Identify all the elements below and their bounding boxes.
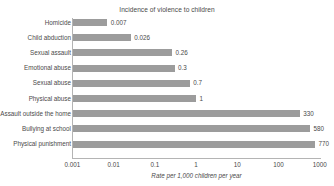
x-tick-label: 1	[194, 161, 198, 169]
y-axis-line	[72, 18, 73, 159]
category-label: Assault outside the home	[0, 110, 71, 118]
bar	[73, 95, 197, 102]
bar	[73, 110, 300, 117]
category-label: Emotional abuse	[24, 64, 71, 72]
bar-value-label: 770	[319, 140, 330, 148]
x-axis-title: Rate per 1,000 children per year	[72, 172, 321, 179]
category-label: Physical punishment	[13, 140, 71, 148]
bar-value-label: 0.26	[175, 49, 187, 57]
bar-value-label: 0.7	[193, 79, 202, 87]
bar-value-label: 0.007	[111, 19, 127, 27]
x-tick-label: 0.001	[65, 161, 81, 169]
category-label: Bullying at school	[22, 125, 71, 133]
bar-value-label: 1	[200, 95, 204, 103]
x-tick-label: 0.1	[151, 161, 160, 169]
violence-incidence-bar-chart: Incidence of violence to children Homici…	[0, 0, 334, 186]
category-label: Physical abuse	[29, 95, 71, 103]
bar	[73, 80, 190, 87]
bar	[73, 19, 108, 26]
bar-value-label: 0.3	[178, 64, 187, 72]
bar-value-label: 330	[303, 110, 314, 118]
category-label: Child abduction	[28, 34, 71, 42]
x-tick-label: 0.01	[108, 161, 120, 169]
bar	[73, 49, 172, 56]
bar	[73, 65, 175, 72]
bar	[73, 125, 310, 132]
x-tick-label: 100	[273, 161, 284, 169]
category-label: Sexual assault	[30, 49, 71, 57]
bar	[73, 141, 316, 148]
category-label: Homicide	[45, 19, 71, 27]
category-label: Sexual abuse	[33, 79, 71, 87]
x-tick-label: 10	[234, 161, 241, 169]
bar-value-label: 0.026	[134, 34, 150, 42]
x-axis-line	[72, 158, 321, 159]
x-tick-label: 1000	[313, 161, 327, 169]
bar-value-label: 580	[313, 125, 324, 133]
plot-area: HomicideChild abductionSexual assaultEmo…	[0, 0, 334, 186]
bar	[73, 34, 131, 41]
